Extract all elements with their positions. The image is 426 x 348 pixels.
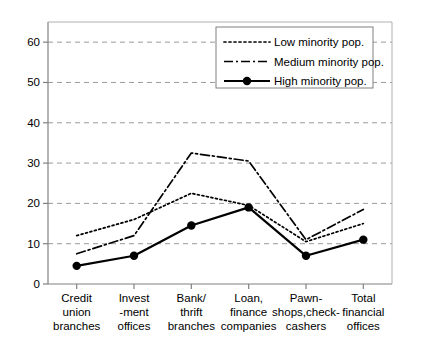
chart-canvas: 0102030405060 CreditunionbranchesInvest-… bbox=[0, 0, 426, 348]
y-tick-label-40: 40 bbox=[27, 117, 40, 129]
series-marker-2-2 bbox=[187, 221, 195, 229]
x-axis-category-labels: CreditunionbranchesInvest-mentofficesBan… bbox=[53, 292, 384, 332]
legend-label-2: High minority pop. bbox=[274, 75, 367, 87]
legend-label-0: Low minority pop. bbox=[274, 36, 364, 48]
y-tick-label-60: 60 bbox=[27, 36, 40, 48]
legend-label-1: Medium minority pop. bbox=[274, 56, 384, 68]
y-tick-label-50: 50 bbox=[27, 76, 40, 88]
x-category-label-5-line-0: Total bbox=[351, 292, 375, 304]
y-tick-label-20: 20 bbox=[27, 197, 40, 209]
x-category-label-3-line-0: Loan, bbox=[234, 292, 263, 304]
y-axis-ticks: 0102030405060 bbox=[27, 36, 48, 290]
x-category-label-5-line-2: offices bbox=[347, 320, 380, 332]
x-category-label-3-line-2: companies bbox=[221, 320, 277, 332]
series-marker-2-0 bbox=[72, 262, 80, 270]
x-category-label-4-line-0: Pawn- bbox=[290, 292, 323, 304]
chart-legend: Low minority pop.Medium minority pop.Hig… bbox=[216, 27, 384, 88]
series-marker-2-4 bbox=[302, 252, 310, 260]
y-tick-label-10: 10 bbox=[27, 238, 40, 250]
x-category-label-0-line-2: branches bbox=[53, 320, 101, 332]
y-tick-label-0: 0 bbox=[34, 278, 40, 290]
legend-marker-icon bbox=[243, 77, 251, 85]
x-axis-ticks bbox=[77, 284, 364, 289]
y-tick-label-30: 30 bbox=[27, 157, 40, 169]
x-category-label-1-line-2: offices bbox=[117, 320, 150, 332]
series-marker-2-3 bbox=[244, 203, 252, 211]
x-category-label-2-line-1: thrift bbox=[180, 306, 203, 318]
series-marker-2-5 bbox=[359, 235, 367, 243]
x-category-label-5-line-1: financial bbox=[342, 306, 384, 318]
x-category-label-1-line-1: -ment bbox=[119, 306, 149, 318]
x-category-label-0-line-0: Credit bbox=[61, 292, 92, 304]
x-category-label-3-line-1: finance bbox=[230, 306, 267, 318]
x-category-label-0-line-1: union bbox=[63, 306, 91, 318]
x-category-label-2-line-2: branches bbox=[168, 320, 216, 332]
series-marker-2-1 bbox=[130, 252, 138, 260]
x-category-label-2-line-0: Bank/ bbox=[177, 292, 207, 304]
line-chart: 0102030405060 CreditunionbranchesInvest-… bbox=[0, 0, 426, 348]
x-category-label-1-line-0: Invest bbox=[119, 292, 150, 304]
x-category-label-4-line-2: cashers bbox=[286, 320, 327, 332]
x-category-label-4-line-1: shops,check- bbox=[272, 306, 340, 318]
